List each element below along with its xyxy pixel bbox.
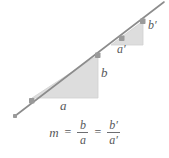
equation-slope-symbol: m — [49, 125, 58, 141]
fraction-b-prime-over-a-prime: b′ a′ — [107, 118, 120, 147]
equation-equals-second: = — [93, 125, 102, 140]
slope-figure: a b a′ b′ m = b a = b′ a′ — [0, 0, 169, 158]
equation-equals-first: = — [64, 125, 73, 140]
label-leg-b-prime: b′ — [148, 19, 157, 31]
label-leg-b: b — [101, 66, 108, 79]
slope-equation: m = b a = b′ a′ — [0, 118, 169, 147]
fraction-denominator: a — [78, 133, 88, 147]
fraction-numerator: b′ — [107, 118, 120, 132]
fraction-numerator: b — [78, 118, 88, 132]
label-leg-a: a — [60, 99, 67, 112]
large-triangle — [32, 55, 98, 98]
line-point-marker — [140, 19, 146, 25]
line-point-marker — [29, 98, 35, 104]
small-triangle — [111, 21, 143, 45]
fraction-denominator: a′ — [107, 133, 120, 147]
line-point-marker — [119, 36, 125, 42]
line-point-marker — [95, 53, 101, 59]
fraction-b-over-a: b a — [77, 118, 88, 147]
label-leg-a-prime: a′ — [117, 43, 126, 55]
